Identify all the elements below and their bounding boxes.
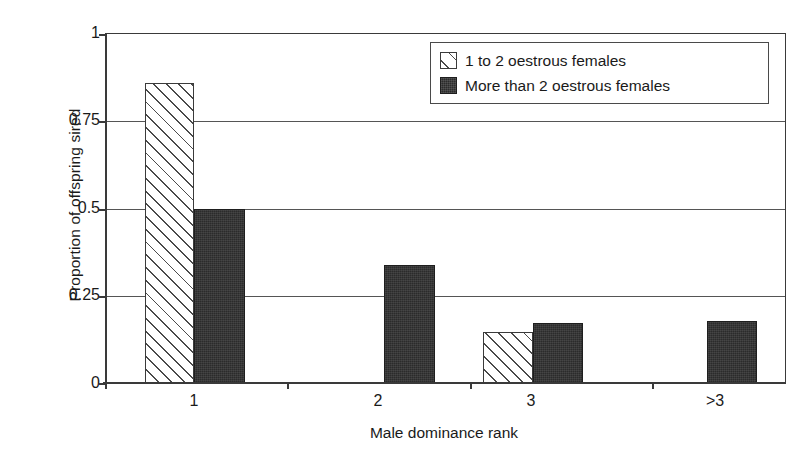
x-tick-mark-3 [652, 382, 654, 389]
x-tick-label-2: 2 [338, 392, 418, 410]
gridline-075 [107, 121, 785, 122]
bar-chart-figure: Proportion of offspring sired 1 0.75 0.5… [0, 0, 806, 457]
y-tick-label-1: 1 [44, 25, 100, 41]
y-tick-mark-05 [99, 209, 107, 211]
y-tick-mark-075 [99, 121, 107, 123]
y-tick-label-025: 0.25 [44, 287, 100, 303]
y-tick-label-05: 0.5 [44, 200, 100, 216]
bar-rank3-one-to-two-females [483, 332, 533, 385]
legend-item-more-than-two-females: More than 2 oestrous females [440, 73, 768, 98]
x-tick-label-1: 1 [154, 392, 234, 410]
x-tick-label-gt3: >3 [675, 392, 755, 410]
legend-label-more-than-two-females: More than 2 oestrous females [465, 77, 670, 95]
bar-rank1-one-to-two-females [145, 83, 194, 384]
x-tick-mark-1 [287, 382, 289, 389]
bar-rank2-more-than-two-females [384, 265, 435, 384]
x-tick-mark-2 [470, 382, 472, 389]
x-tick-mark-left-edge [105, 382, 107, 389]
plot-area: 1 to 2 oestrous females More than 2 oest… [105, 33, 786, 384]
y-tick-label-0: 0 [44, 375, 100, 391]
bar-rank-gt3-more-than-two-females [707, 321, 757, 384]
y-tick-label-075: 0.75 [44, 112, 100, 128]
legend-label-one-to-two-females: 1 to 2 oestrous females [465, 52, 626, 70]
y-tick-mark-025 [99, 296, 107, 298]
x-axis-title: Male dominance rank [105, 424, 783, 442]
y-tick-mark-1 [99, 34, 107, 36]
legend-item-one-to-two-females: 1 to 2 oestrous females [440, 48, 768, 73]
bar-rank3-more-than-two-females [533, 323, 583, 384]
x-axis-line [103, 382, 785, 384]
x-tick-label-3: 3 [491, 392, 571, 410]
legend-swatch-hatched-icon [440, 52, 457, 69]
legend-swatch-solid-icon [440, 77, 457, 94]
legend: 1 to 2 oestrous females More than 2 oest… [430, 42, 769, 104]
bar-rank1-more-than-two-females [194, 209, 245, 384]
y-axis-tick-labels: 1 0.75 0.5 0.25 0 [30, 0, 100, 457]
